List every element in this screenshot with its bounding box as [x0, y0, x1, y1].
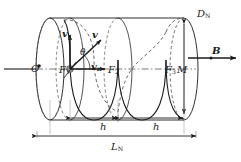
label-focus-1-base: F — [59, 64, 66, 75]
magnetic-field-vector — [188, 57, 236, 60]
length-dimension-line — [37, 131, 196, 138]
label-velocity-axial: vz — [91, 62, 100, 72]
label-focus-3: F3 — [165, 65, 176, 75]
label-point-m: M — [177, 65, 187, 75]
dimension-helper-lines — [50, 100, 184, 134]
label-focus-1: F1 — [59, 65, 70, 75]
label-diameter-base: D — [197, 8, 205, 19]
physics-diagram-figure: O F1 F2 F3 M DN B vr v vz θ h h LN — [0, 0, 241, 162]
label-total-length-base: L — [111, 141, 118, 152]
label-total-length: LN — [111, 142, 123, 152]
diagram-canvas — [0, 0, 241, 162]
label-total-length-sub: N — [118, 145, 123, 152]
label-diameter: DN — [197, 9, 210, 19]
label-diameter-sub: N — [205, 12, 210, 19]
label-velocity-total: v — [92, 30, 98, 40]
label-focus-2-sub: 2 — [115, 68, 119, 75]
label-velocity-radial-sub: r — [68, 32, 71, 39]
label-pitch-1: h — [100, 122, 106, 132]
label-focus-2: F2 — [108, 65, 119, 75]
label-focus-2-base: F — [108, 64, 115, 75]
label-pitch-2: h — [153, 122, 159, 132]
label-origin: O — [31, 64, 39, 74]
label-focus-3-base: F — [165, 64, 172, 75]
label-velocity-axial-sub: z — [97, 65, 101, 72]
label-focus-3-sub: 3 — [172, 68, 176, 75]
label-focus-1-sub: 1 — [66, 68, 70, 75]
label-magnetic-field: B — [212, 46, 220, 56]
label-velocity-radial: vr — [62, 29, 71, 39]
pitch-dimension-lines — [70, 114, 184, 122]
label-angle-theta: θ — [80, 48, 85, 57]
